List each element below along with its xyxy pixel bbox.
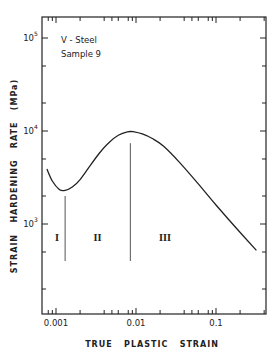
y-tick-exponent: 4	[34, 123, 38, 130]
chart-canvas: 103104105 0.0010.010.1 IIIIII V - Steel …	[0, 0, 272, 353]
y-tick-label: 10	[23, 126, 34, 136]
annotation-sample: Sample 9	[61, 49, 101, 59]
hardening-rate-curve	[47, 131, 257, 250]
stage-labels: IIIIII	[55, 233, 171, 243]
y-tick-label: 10	[23, 219, 34, 229]
annotation-material: V - Steel	[61, 35, 97, 45]
stage-label: III	[159, 233, 171, 243]
x-tick-label: 0.01	[127, 318, 146, 328]
x-tick-label: 0.001	[44, 318, 68, 328]
stage-label: II	[94, 233, 102, 243]
y-tick-label: 10	[23, 33, 34, 43]
x-axis-label: TRUE PLASTIC STRAIN	[85, 340, 219, 349]
x-tick-label: 0.1	[209, 318, 223, 328]
x-axis-ticks: 0.0010.010.1	[44, 17, 264, 328]
y-tick-exponent: 3	[34, 216, 38, 223]
y-tick-exponent: 5	[34, 30, 38, 37]
y-axis-label: STRAIN HARDENING RATE (MPa)	[10, 79, 19, 273]
plot-frame	[42, 17, 266, 314]
y-axis-ticks: 103104105	[23, 30, 266, 289]
stage-label: I	[55, 233, 59, 243]
